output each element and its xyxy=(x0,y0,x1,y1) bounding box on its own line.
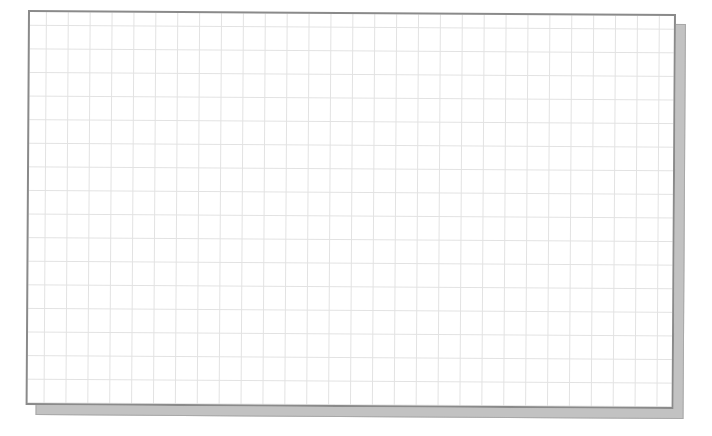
grid-paper-canvas[interactable] xyxy=(26,10,676,409)
grid-sheet-container xyxy=(26,10,676,409)
stage xyxy=(0,0,712,436)
